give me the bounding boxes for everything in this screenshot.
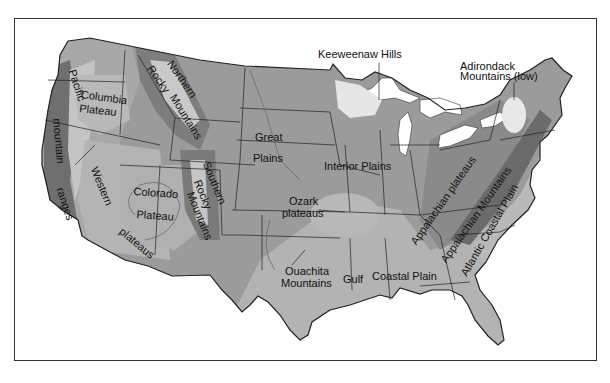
adirondack-area <box>502 97 526 133</box>
label-keweenaw-hills: Keeweenaw Hills <box>318 48 402 60</box>
label-gulf-coastal-plain: Coastal Plain <box>372 270 437 282</box>
label-gulf: Gulf <box>343 273 363 285</box>
label-interior-plains: Interior Plains <box>324 160 391 172</box>
label-ouachita: Ouachita <box>285 265 329 277</box>
label-adirondack-mountains: Mountains (low) <box>460 70 538 82</box>
us-physiographic-map <box>0 0 610 383</box>
label-ozark: Ozark <box>289 195 318 207</box>
label-ouachita-mountains: Mountains <box>281 277 332 289</box>
label-plains: Plains <box>253 152 283 164</box>
label-colorado-plateau: Plateau <box>136 208 174 223</box>
label-ozark-plateaus: plateaus <box>282 207 324 219</box>
label-great: Great <box>255 131 283 143</box>
